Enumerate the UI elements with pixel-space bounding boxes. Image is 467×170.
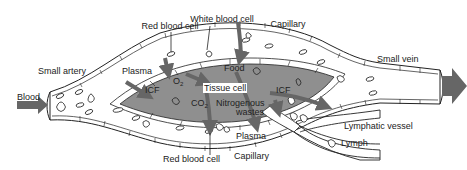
label-co2: CO2	[191, 98, 208, 111]
label-lymph: Lymph	[341, 138, 368, 148]
label-food: Food	[224, 63, 245, 73]
label-blood: Blood	[17, 92, 40, 102]
label-capillary-bottom: Capillary	[234, 151, 269, 161]
label-icf-left: ICF	[145, 85, 160, 95]
label-lymphatic-vessel: Lymphatic vessel	[344, 121, 413, 131]
label-tissue-cell: Tissue cell	[203, 83, 247, 93]
label-wastes: wastes	[236, 107, 264, 117]
label-white-blood-cell: White blood cell	[190, 14, 254, 24]
label-plasma-bottom: Plasma	[236, 131, 266, 141]
label-o2: O2	[173, 76, 183, 89]
label-small-vein: Small vein	[377, 54, 419, 64]
label-capillary-top: Capillary	[270, 19, 305, 29]
label-plasma-top: Plasma	[122, 66, 152, 76]
label-small-artery: Small artery	[38, 66, 86, 76]
label-red-blood-cell-bottom: Red blood cell	[163, 154, 220, 164]
capillary-exchange-diagram: Red blood cell White blood cell Capillar…	[0, 0, 467, 170]
blood-out-arrow	[442, 68, 467, 104]
label-icf-right: ICF	[276, 85, 291, 95]
